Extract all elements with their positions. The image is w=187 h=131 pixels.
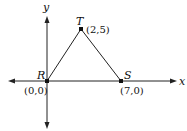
point-R-coords: (0,0) [24,85,48,96]
x-axis-left-arrow-icon [8,79,15,84]
point-T-name: T [76,15,85,28]
x-axis-label: x [179,75,186,88]
segment-RT [47,29,81,81]
y-axis: y [42,1,50,129]
coordinate-diagram: x y R (0,0) T (2,5) S (7,0) [0,0,187,131]
point-S-name: S [124,69,132,82]
point-T-coords: (2,5) [86,24,110,35]
x-axis-right-arrow-icon [170,79,177,84]
y-axis-up-arrow-icon [45,16,50,23]
point-R: R (0,0) [24,69,49,96]
point-S: S (7,0) [119,69,144,96]
point-R-marker [45,79,49,83]
point-R-name: R [36,69,45,82]
point-S-coords: (7,0) [120,85,144,96]
point-S-marker [119,79,123,83]
y-axis-down-arrow-icon [45,122,50,129]
segment-TS [81,29,121,81]
point-T: T (2,5) [76,15,110,35]
y-axis-label: y [42,1,50,14]
triangle-RST [47,29,121,81]
